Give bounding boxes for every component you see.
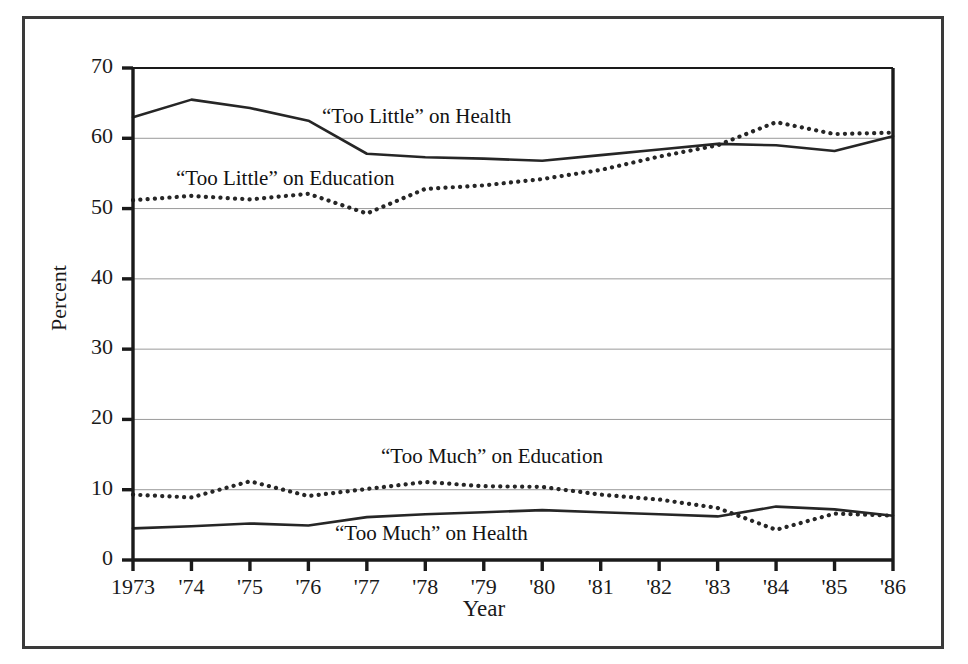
chart-canvas (0, 0, 968, 664)
x-axis-title: Year (0, 596, 968, 622)
figure-container: 706050403020100 1973'74'75'76'77'78'79'8… (0, 0, 968, 664)
annotation-too-little-health: “Too Little” on Health (322, 104, 511, 129)
y-tick-label-70: 70 (13, 53, 113, 79)
y-tick-label-60: 60 (13, 123, 113, 149)
y-tick-label-50: 50 (13, 194, 113, 220)
annotation-too-much-health: “Too Much” on Health (335, 521, 528, 546)
annotation-too-little-education: “Too Little” on Education (176, 166, 394, 191)
y-axis-title: Percent (46, 238, 72, 358)
y-tick-label-10: 10 (13, 475, 113, 501)
series-line-0 (133, 100, 893, 161)
y-tick-label-0: 0 (13, 545, 113, 571)
y-tick-label-20: 20 (13, 404, 113, 430)
gridlines (133, 138, 893, 489)
axis-ticks (122, 68, 893, 571)
annotation-too-much-education: “Too Much” on Education (381, 444, 603, 469)
